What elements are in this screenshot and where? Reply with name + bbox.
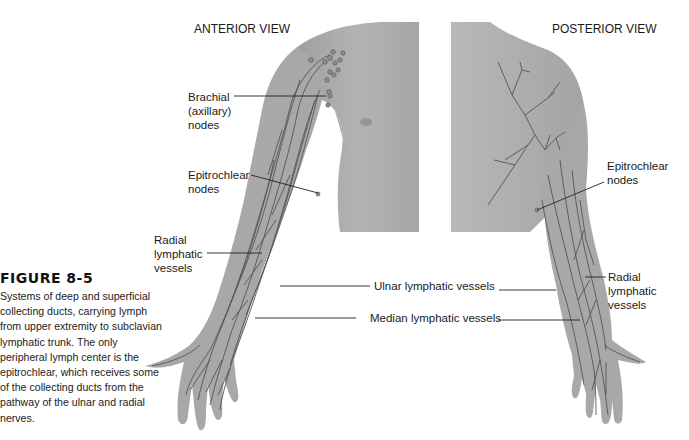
anterior-torso [296, 22, 419, 232]
ulnar-vessels-label: Ulnar lymphatic vessels [374, 279, 495, 293]
figure-title: FIGURE 8-5 [0, 270, 165, 286]
figure-caption: FIGURE 8-5 Systems of deep and superfici… [0, 270, 165, 426]
nipple [360, 118, 372, 126]
posterior-view-title: POSTERIOR VIEW [552, 22, 657, 36]
anterior-body [145, 22, 419, 430]
radial-vessels-posterior-label: Radial lymphatic vessels [608, 270, 657, 312]
brachial-nodes-label: Brachial (axillary) nodes [188, 90, 231, 132]
posterior-body [451, 22, 646, 424]
epitrochlear-nodes-anterior-label: Epitrochlear nodes [188, 168, 249, 196]
figure-description: Systems of deep and superficial collecti… [0, 289, 165, 426]
anterior-view-title: ANTERIOR VIEW [194, 22, 290, 36]
radial-vessels-anterior-label: Radial lymphatic vessels [154, 233, 203, 275]
epitrochlear-nodes-posterior-label: Epitrochlear nodes [607, 159, 668, 187]
median-vessels-label: Median lymphatic vessels [370, 311, 501, 325]
